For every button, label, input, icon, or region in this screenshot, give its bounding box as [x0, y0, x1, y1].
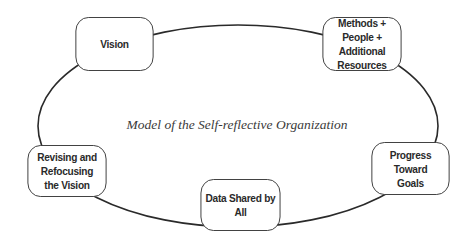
node-methods-people-resources: Methods + People + Additional Resources: [322, 17, 401, 71]
node-revising-refocusing-vision: Revising and Refocusing the Vision: [27, 145, 106, 197]
node-progress-toward-goals: Progress Toward Goals: [371, 142, 449, 195]
node-data-shared-by-all: Data Shared by All: [200, 179, 280, 231]
node-vision: Vision: [75, 17, 153, 71]
diagram-title: Model of the Self-reflective Organizatio…: [0, 117, 474, 133]
